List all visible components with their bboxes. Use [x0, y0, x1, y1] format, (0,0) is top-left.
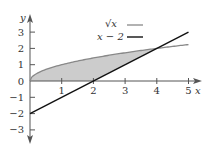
legend-label-x-minus-2: x − 2	[97, 31, 124, 42]
x-tick-label: 2	[90, 85, 96, 96]
chart-canvas: 12345 3210−1−2−3 y x √x x − 2	[0, 0, 221, 153]
y-tick-label: −1	[9, 92, 24, 103]
y-tick-label: −2	[9, 108, 24, 119]
x-tick-label: 4	[154, 85, 160, 96]
x-tick-label: 3	[122, 85, 128, 96]
x-axis-label: x	[195, 85, 201, 96]
legend: √x x − 2	[97, 18, 143, 42]
y-tick-label: −3	[9, 124, 24, 135]
x-tick-label: 5	[185, 85, 191, 96]
y-axis-label: y	[19, 12, 26, 23]
y-tick-label: 0	[18, 76, 24, 87]
legend-label-sqrt: √x	[105, 18, 117, 29]
y-tick-label: 3	[18, 27, 24, 38]
x-tick-label: 1	[59, 85, 65, 96]
y-tick-label: 2	[18, 43, 24, 54]
y-tick-label: 1	[18, 59, 24, 70]
shaded-region	[30, 48, 157, 81]
